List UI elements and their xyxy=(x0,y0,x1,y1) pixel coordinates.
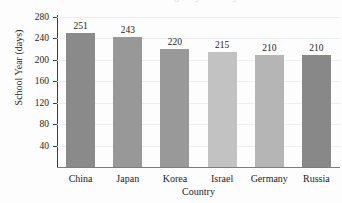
y-tick-label: 280 xyxy=(9,13,49,23)
y-tick-mark xyxy=(53,146,57,147)
gridline xyxy=(57,103,340,104)
gridline xyxy=(57,146,340,147)
y-tick-label: 200 xyxy=(9,56,49,66)
y-tick-mark xyxy=(53,38,57,39)
bar-china[interactable] xyxy=(66,33,95,167)
gridline xyxy=(57,17,340,18)
bar-korea[interactable] xyxy=(160,49,189,167)
gridline xyxy=(57,81,340,82)
bar-value-label: 251 xyxy=(61,21,101,31)
gridline xyxy=(57,60,340,61)
y-tick-label: 120 xyxy=(9,99,49,109)
y-tick-label: 160 xyxy=(9,77,49,87)
gridline xyxy=(57,124,340,125)
y-tick-label: 240 xyxy=(9,34,49,44)
bar-chart-figure: School Year Length by Country School Yea… xyxy=(0,0,342,203)
x-tick-label-russia: Russia xyxy=(286,173,342,184)
bar-germany[interactable] xyxy=(255,55,284,168)
bar-value-label: 210 xyxy=(296,43,336,53)
y-tick-label: 80 xyxy=(9,120,49,130)
x-axis-title: Country xyxy=(57,186,340,197)
y-tick-mark xyxy=(53,60,57,61)
bar-value-label: 210 xyxy=(249,43,289,53)
y-tick-mark xyxy=(53,103,57,104)
chart-title-cropped: School Year Length by Country xyxy=(0,0,342,3)
bar-value-label: 215 xyxy=(202,40,242,50)
gridline xyxy=(57,38,340,39)
y-tick-mark xyxy=(53,124,57,125)
x-axis-line xyxy=(57,167,340,168)
plot-area: 2802402001601208040251243220215210210 xyxy=(57,17,340,167)
bar-value-label: 243 xyxy=(108,25,148,35)
bar-value-label: 220 xyxy=(155,37,195,47)
bar-russia[interactable] xyxy=(302,55,331,168)
bar-japan[interactable] xyxy=(113,37,142,167)
y-tick-label: 40 xyxy=(9,142,49,152)
y-tick-mark xyxy=(53,81,57,82)
y-tick-mark xyxy=(53,17,57,18)
bar-israel[interactable] xyxy=(208,52,237,167)
